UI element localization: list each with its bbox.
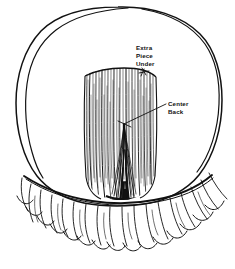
canvas-background — [0, 0, 235, 269]
center-back-line1: Center — [168, 100, 189, 107]
extra-piece-under-line2: Piece — [136, 52, 153, 59]
extra-piece-under-line3: Under — [136, 60, 155, 67]
head-hair-diagram-svg: Extra Piece Under Center Back — [0, 0, 235, 269]
illustration-canvas: Extra Piece Under Center Back — [0, 0, 235, 269]
extra-piece-under-line1: Extra — [136, 44, 153, 51]
center-back-line2: Back — [168, 108, 184, 115]
